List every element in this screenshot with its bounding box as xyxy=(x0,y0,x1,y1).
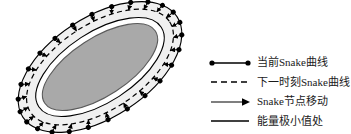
legend-item-energy-minimum: 能量极小值处 xyxy=(208,113,351,130)
dashed-line-icon xyxy=(208,75,252,89)
figure-container: 当前Snake曲线 下一时刻Snake曲线 Snake节点移动 能量极小值处 xyxy=(0,0,351,134)
line-with-end-dots-icon xyxy=(208,56,252,70)
snake-contour-diagram xyxy=(0,0,200,134)
legend-item-current-curve: 当前Snake曲线 xyxy=(208,54,351,71)
legend-label-node-movement: Snake节点移动 xyxy=(257,95,328,108)
legend-item-next-curve: 下一时刻Snake曲线 xyxy=(208,74,351,91)
legend-label-current-curve: 当前Snake曲线 xyxy=(257,56,328,69)
legend-item-node-movement: Snake节点移动 xyxy=(208,93,351,110)
legend-label-energy-minimum: 能量极小值处 xyxy=(257,115,323,128)
thick-solid-line-icon xyxy=(208,114,252,128)
figure-legend: 当前Snake曲线 下一时刻Snake曲线 Snake节点移动 能量极小值处 xyxy=(208,54,351,130)
legend-label-next-curve: 下一时刻Snake曲线 xyxy=(257,76,350,89)
arrow-line-icon xyxy=(208,95,252,109)
